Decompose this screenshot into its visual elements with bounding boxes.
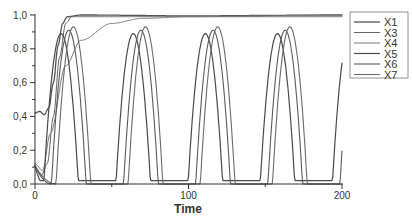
legend: X1X3X4X5X6X7 bbox=[350, 12, 408, 81]
y-tick-label: 0,4 bbox=[13, 111, 27, 122]
y-tick-label: 0,2 bbox=[13, 145, 27, 156]
x-tick-label: 0 bbox=[32, 190, 38, 201]
y-tick-label: 1,0 bbox=[13, 10, 27, 21]
x-ticks: 0100200 bbox=[32, 184, 351, 201]
y-tick-label: 0,6 bbox=[13, 77, 27, 88]
x-axis-title: Time bbox=[174, 202, 202, 216]
line-chart: 0,00,20,40,60,81,0 0100200 Time X1X3X4X5… bbox=[0, 0, 413, 220]
y-ticks: 0,00,20,40,60,81,0 bbox=[13, 10, 35, 190]
series-x1 bbox=[35, 15, 342, 115]
x-tick-label: 100 bbox=[180, 190, 197, 201]
legend-label-x7: X7 bbox=[384, 69, 397, 81]
x-tick-label: 200 bbox=[334, 190, 351, 201]
series-x6 bbox=[35, 30, 342, 184]
y-tick-label: 0,8 bbox=[13, 43, 27, 54]
plot-area bbox=[35, 15, 342, 184]
y-tick-label: 0,0 bbox=[13, 179, 27, 190]
